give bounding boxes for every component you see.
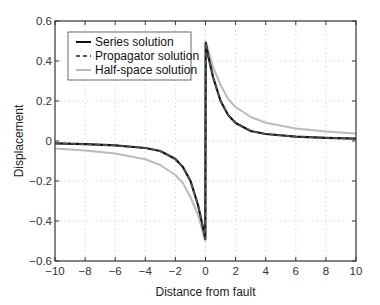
y-tick-label: 0 [46, 135, 52, 147]
x-tick-label: 8 [323, 265, 329, 277]
y-tick-label: −0.2 [29, 175, 52, 187]
y-tick-label: 0.4 [36, 55, 53, 67]
x-tick-label: 0 [202, 265, 208, 277]
x-tick-label: 10 [350, 265, 363, 277]
x-tick-label: −4 [139, 265, 153, 277]
x-tick-label: 4 [262, 265, 269, 277]
y-tick-label: 0.6 [36, 15, 52, 27]
y-axis-label: Displacement [12, 104, 26, 177]
x-tick-label: −6 [109, 265, 122, 277]
legend: Series solution Propagator solution Half… [68, 32, 199, 80]
legend-label-halfspace: Half-space solution [95, 63, 197, 77]
legend-label-series: Series solution [95, 35, 174, 49]
legend-label-propagator: Propagator solution [95, 49, 199, 63]
y-tick-label: −0.6 [29, 255, 52, 267]
chart: −10−8−6−4−20246810−0.6−0.4−0.200.20.40.6… [0, 0, 380, 305]
x-tick-label: −2 [169, 265, 182, 277]
y-tick-label: −0.4 [29, 215, 52, 227]
x-tick-label: −8 [79, 265, 92, 277]
x-tick-label: 2 [232, 265, 238, 277]
x-tick-label: 6 [293, 265, 299, 277]
y-tick-label: 0.2 [36, 95, 52, 107]
x-axis-label: Distance from fault [155, 285, 256, 299]
